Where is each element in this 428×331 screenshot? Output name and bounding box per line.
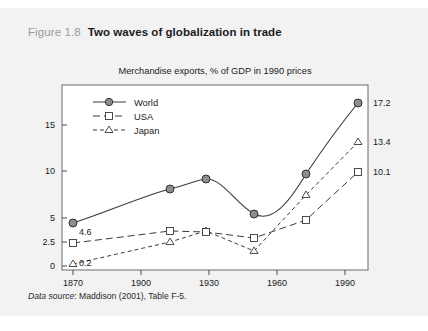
legend-label-usa: USA [134,112,154,122]
data-point-world [354,99,362,107]
annotation-world-start: 4.6 [79,227,92,237]
y-tick-label: 10 [45,166,55,176]
y-tick-label: 0 [50,261,55,271]
data-point-usa [303,217,310,224]
data-point-usa [355,169,362,176]
figure-card: Figure 1.8Two waves of globalization in … [0,8,428,316]
annotation-japan-start: 0.2 [79,258,92,268]
data-point-usa [70,240,77,247]
data-point-usa [203,229,210,236]
annotation-japan-end: 13.4 [373,137,391,147]
legend-marker-usa [106,113,113,120]
source-note: Data source: Maddison (2001), Table F-5. [28,291,186,301]
source-text: : Maddison (2001), Table F-5. [74,291,186,301]
source-label: Data source [28,291,74,301]
x-tick-label: 1990 [335,278,355,288]
x-axis: 1870 1900 1930 1960 1990 [63,270,355,288]
y-tick-label: 2.5 [42,237,55,247]
line-chart: 15 10 5 2.5 0 1870 1900 1930 1960 1990 [0,8,428,316]
x-tick-label: 1870 [63,278,83,288]
data-point-usa [167,228,174,235]
data-point-world [69,219,77,227]
y-tick-label: 5 [50,213,55,223]
annotation-usa-end: 10.1 [373,167,391,177]
legend-label-world: World [134,98,158,108]
x-tick-label: 1930 [199,278,219,288]
legend-marker-world [105,98,112,105]
data-point-world [250,210,258,218]
y-tick-label: 15 [45,120,55,130]
annotation-world-end: 17.2 [373,98,391,108]
legend-label-japan: Japan [134,126,159,136]
chart-plot-area: 15 10 5 2.5 0 1870 1900 1930 1960 1990 [0,8,428,316]
data-point-usa [251,235,258,242]
data-point-world [166,185,174,193]
x-tick-label: 1960 [267,278,287,288]
data-point-world [202,175,210,183]
x-tick-label: 1900 [131,278,151,288]
data-point-world [302,170,310,178]
